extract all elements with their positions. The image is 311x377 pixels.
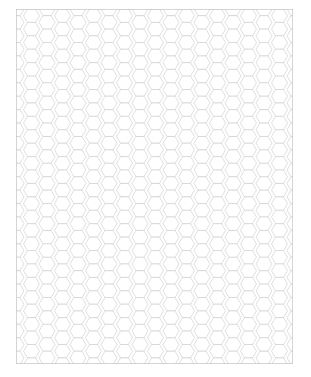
hexagon-cell bbox=[24, 157, 40, 170]
hexagon-cell bbox=[241, 90, 257, 103]
hexagon-cell bbox=[163, 163, 179, 176]
hexagon-cell bbox=[241, 237, 257, 250]
hexagon-cell bbox=[210, 237, 226, 250]
hexagon-cell bbox=[241, 170, 257, 183]
hexagon-cell bbox=[179, 170, 195, 183]
hexagon-cell bbox=[272, 210, 288, 223]
hexagon-cell bbox=[101, 69, 117, 82]
hexagon-cell bbox=[241, 197, 257, 210]
hexagon-cell bbox=[70, 190, 86, 203]
hexagon-cell bbox=[117, 331, 133, 344]
hexagon-cell bbox=[210, 157, 226, 170]
hexagon-cell bbox=[86, 49, 102, 62]
hexagon-cell bbox=[16, 244, 24, 257]
hexagon-cell bbox=[70, 136, 86, 149]
hexagon-cell bbox=[256, 298, 272, 311]
hexagon-cell bbox=[287, 69, 293, 82]
hexagon-cell bbox=[287, 271, 293, 284]
hexagon-cell bbox=[101, 271, 117, 284]
hexagon-cell bbox=[101, 96, 117, 109]
hexagon-cell bbox=[163, 136, 179, 149]
hexagon-cell bbox=[55, 90, 71, 103]
hexagon-cell bbox=[24, 251, 40, 264]
hexagon-cell bbox=[70, 110, 86, 123]
hexagon-cell bbox=[287, 230, 293, 243]
hexagon-cell bbox=[16, 16, 24, 29]
hexagon-cell bbox=[272, 143, 288, 156]
hexagon-cell bbox=[101, 324, 117, 337]
hexagon-cell bbox=[132, 311, 148, 324]
hexagon-cell bbox=[194, 324, 210, 337]
hexagon-cell bbox=[39, 9, 55, 16]
hexagon-cell bbox=[272, 157, 288, 170]
hexagon-cell bbox=[163, 298, 179, 311]
hexagon-cell bbox=[70, 43, 86, 56]
hexagon-cell bbox=[241, 345, 257, 358]
hexagon-cell bbox=[148, 264, 164, 277]
hexagon-cell bbox=[241, 358, 257, 364]
hexagon-cell bbox=[132, 284, 148, 297]
hexagon-cell bbox=[179, 210, 195, 223]
hexagon-cell bbox=[86, 277, 102, 290]
hexagon-cell bbox=[225, 311, 241, 324]
hexagon-cell bbox=[39, 69, 55, 82]
hexagon-cell bbox=[117, 36, 133, 49]
hexagon-cell bbox=[179, 291, 195, 304]
hexagon-cell bbox=[132, 9, 148, 16]
hexagon-cell bbox=[241, 183, 257, 196]
hexagon-cell bbox=[287, 190, 293, 203]
hexagon-cell bbox=[163, 311, 179, 324]
hexagon-cell bbox=[16, 324, 24, 337]
hexagon-cell bbox=[86, 264, 102, 277]
hexagon-cell bbox=[101, 110, 117, 123]
hexagon-cell bbox=[194, 163, 210, 176]
hexagon-cell bbox=[55, 49, 71, 62]
hexagon-cell bbox=[117, 251, 133, 264]
hexagon-cell bbox=[256, 96, 272, 109]
hexagon-cell bbox=[132, 257, 148, 270]
hexagon-cell bbox=[70, 298, 86, 311]
hexagon-cell bbox=[117, 22, 133, 35]
hexagon-cell bbox=[86, 358, 102, 364]
hexagon-cell bbox=[132, 29, 148, 42]
hexagon-cell bbox=[132, 43, 148, 56]
hexagon-cell bbox=[148, 116, 164, 129]
hexagon-cell bbox=[163, 284, 179, 297]
hexagon-cell bbox=[16, 163, 24, 176]
hexagon-cell bbox=[132, 69, 148, 82]
hexagon-cell bbox=[132, 204, 148, 217]
hexagon-cell bbox=[225, 257, 241, 270]
hexagon-cell bbox=[39, 324, 55, 337]
hexagon-cell bbox=[101, 56, 117, 69]
hexagon-cell bbox=[256, 311, 272, 324]
hexagon-cell bbox=[194, 83, 210, 96]
hexagon-cell bbox=[39, 244, 55, 257]
hexagon-cell bbox=[39, 230, 55, 243]
hexagon-cell bbox=[225, 351, 241, 364]
hexagon-cell bbox=[39, 16, 55, 29]
hexagon-cell bbox=[194, 110, 210, 123]
hexagon-cell bbox=[24, 130, 40, 143]
hexagon-cell bbox=[272, 103, 288, 116]
hexagon-cell bbox=[16, 123, 24, 136]
hexagon-cell bbox=[148, 22, 164, 35]
hexagon-cell bbox=[163, 9, 179, 16]
hexagon-cell bbox=[16, 150, 24, 163]
hexagon-cell bbox=[225, 177, 241, 190]
hexagon-cell bbox=[24, 318, 40, 331]
hexagon-cell bbox=[179, 90, 195, 103]
hexagon-cell bbox=[16, 190, 24, 203]
hexagon-cell bbox=[86, 197, 102, 210]
hexagon-cell bbox=[256, 43, 272, 56]
hexagon-cell bbox=[179, 277, 195, 290]
hexagon-cell bbox=[86, 251, 102, 264]
hexagon-cell bbox=[16, 29, 24, 42]
hexagon-cell bbox=[287, 9, 293, 16]
hexagon-cell bbox=[179, 9, 195, 22]
hexagon-cell bbox=[256, 16, 272, 29]
hexagon-cell bbox=[241, 49, 257, 62]
hexagon-cell bbox=[16, 9, 24, 16]
hexagon-cell bbox=[210, 143, 226, 156]
hexagon-cell bbox=[24, 358, 40, 364]
hexagon-cell bbox=[287, 83, 293, 96]
